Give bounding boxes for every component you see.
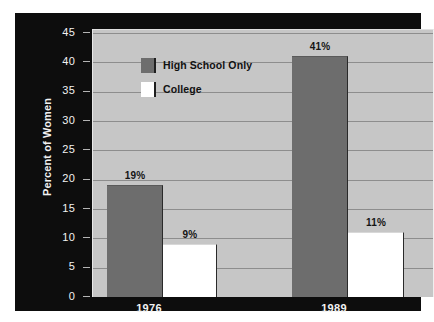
y-tick-mark-30 [83, 120, 90, 121]
y-tick-label-0: 0 [49, 291, 75, 302]
legend-swatch-college [141, 82, 156, 97]
y-tick-label-35: 35 [49, 85, 75, 96]
gridline-30 [93, 121, 433, 122]
gridline-25 [93, 150, 433, 151]
bar-value-1976-high-school-only: 19% [113, 170, 157, 181]
y-tick-mark-35 [83, 91, 90, 92]
bar-value-1989-high-school-only: 41% [298, 41, 342, 52]
y-tick-mark-15 [83, 208, 90, 209]
y-tick-mark-0 [83, 296, 90, 297]
y-tick-label-40: 40 [49, 56, 75, 67]
y-tick-label-5: 5 [49, 261, 75, 272]
legend-item-high-school-only[interactable]: High School Only [141, 55, 291, 75]
y-tick-label-25: 25 [49, 144, 75, 155]
figure-frame: Percent of Women 45 40 35 30 25 20 15 10… [15, 13, 421, 311]
bar-1976-high-school-only[interactable] [107, 185, 163, 297]
gridline-45 [93, 33, 433, 34]
y-tick-mark-25 [83, 149, 90, 150]
y-tick-label-15: 15 [49, 203, 75, 214]
y-tick-label-20: 20 [49, 173, 75, 184]
x-tick-label-1976: 1976 [119, 302, 179, 314]
chart-legend: High School Only College [141, 55, 291, 103]
bar-1989-high-school-only[interactable] [292, 56, 348, 297]
y-tick-label-30: 30 [49, 115, 75, 126]
y-tick-label-45: 45 [49, 27, 75, 38]
y-tick-mark-45 [83, 32, 90, 33]
y-tick-mark-10 [83, 237, 90, 238]
bar-value-1976-college: 9% [168, 229, 212, 240]
y-tick-label-10: 10 [49, 232, 75, 243]
bar-1976-college[interactable] [163, 244, 217, 297]
plot-area: 19% 9% 41% 11% High School Only College [92, 29, 434, 297]
y-tick-mark-20 [83, 179, 90, 180]
y-tick-mark-40 [83, 61, 90, 62]
legend-item-college[interactable]: College [141, 79, 291, 99]
y-tick-mark-5 [83, 267, 90, 268]
bar-1989-college[interactable] [348, 232, 404, 297]
legend-label-college: College [163, 83, 202, 95]
bar-value-1989-college: 11% [354, 217, 398, 228]
x-tick-label-1989: 1989 [304, 302, 364, 314]
legend-swatch-high-school-only [141, 58, 156, 73]
legend-label-high-school-only: High School Only [163, 59, 252, 71]
